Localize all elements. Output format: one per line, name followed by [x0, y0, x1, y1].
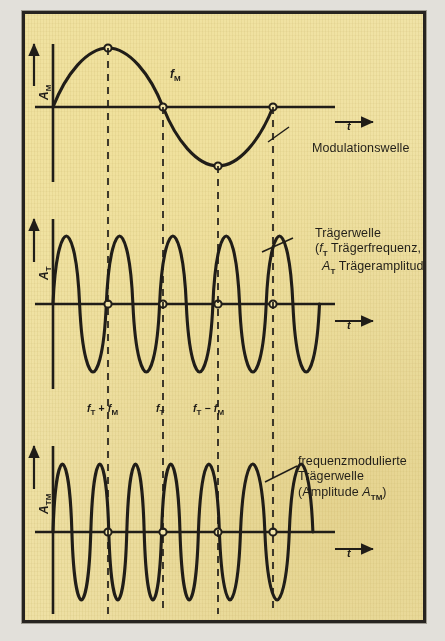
fm-callout-line-1: frequenzmodulierte — [298, 454, 407, 469]
carrier-y-axis-label: AT — [37, 266, 54, 280]
traegerwelle-callout-line-1: Trägerwelle — [315, 226, 426, 241]
modulation-frequency-sub: M — [174, 74, 181, 83]
diagram-plate: AM t fM Modulationswelle AT t Trägerwell… — [22, 11, 426, 623]
mod-y-axis-label: AM — [37, 85, 54, 100]
carrier-x-axis-label: t — [347, 319, 351, 332]
fm-callout-line-3-post: ) — [382, 485, 386, 499]
modulationswelle-callout: Modulationswelle — [312, 141, 410, 156]
fm-y-axis-label-sub: TM — [44, 494, 53, 506]
fm-callout-line-3-sub: TM — [371, 492, 383, 501]
traegerwelle-callout-line-2-post: Trägerfrequenz, — [328, 241, 421, 255]
traegerwelle-callout-line-2: (fT Trägerfrequenz, — [315, 241, 426, 258]
traegerwelle-callout-line-3: AT Trägeramplitude) — [315, 259, 426, 276]
fm-y-axis-label: ATM — [37, 494, 54, 514]
freq-tick-3-sub2: M — [217, 408, 224, 417]
guide-lines — [108, 48, 273, 614]
modulationswelle-leader — [268, 127, 289, 142]
freq-tick-1-sub2: M — [111, 408, 118, 417]
fm-x-axis-label: t — [347, 547, 351, 560]
traegerwelle-leader — [262, 238, 293, 252]
mod-x-axis-label: t — [347, 120, 351, 133]
figure-root: AM t fM Modulationswelle AT t Trägerwell… — [0, 0, 445, 641]
traegerwelle-callout-line-3-post: Trägeramplitude) — [335, 259, 426, 273]
fm-callout-line-2: Trägerwelle — [298, 469, 407, 484]
mod-y-axis-label-main: A — [37, 91, 51, 100]
fm-traegerwelle-callout: frequenzmodulierte Trägerwelle (Amplitud… — [298, 454, 407, 502]
fm-callout-line-3: (Amplitude ATM) — [298, 485, 407, 502]
freq-tick-2-sub1: T — [160, 408, 165, 417]
diagram-canvas — [25, 14, 426, 623]
mod-y-axis-label-sub: M — [44, 85, 53, 92]
freq-tick-ft-plus-fm: fT + fM — [87, 402, 118, 418]
carrier-y-axis-label-main: A — [37, 271, 51, 280]
panel-modulation — [34, 44, 373, 182]
freq-tick-ft: fT — [156, 402, 165, 418]
freq-tick-ft-minus-fm: fT − fM — [193, 402, 224, 418]
modulationswelle-callout-line-1: Modulationswelle — [312, 141, 410, 156]
modulation-frequency-label: fM — [170, 67, 181, 84]
traegerwelle-callout: Trägerwelle (fT Trägerfrequenz, AT Träge… — [315, 226, 426, 276]
carrier-y-axis-label-sub: T — [44, 266, 53, 271]
fm-traegerwelle-leader — [265, 466, 297, 482]
fm-callout-line-3-sym: A — [362, 485, 370, 499]
fm-y-axis-label-main: A — [37, 505, 51, 514]
fm-callout-line-3-pre: (Amplitude — [298, 485, 362, 499]
